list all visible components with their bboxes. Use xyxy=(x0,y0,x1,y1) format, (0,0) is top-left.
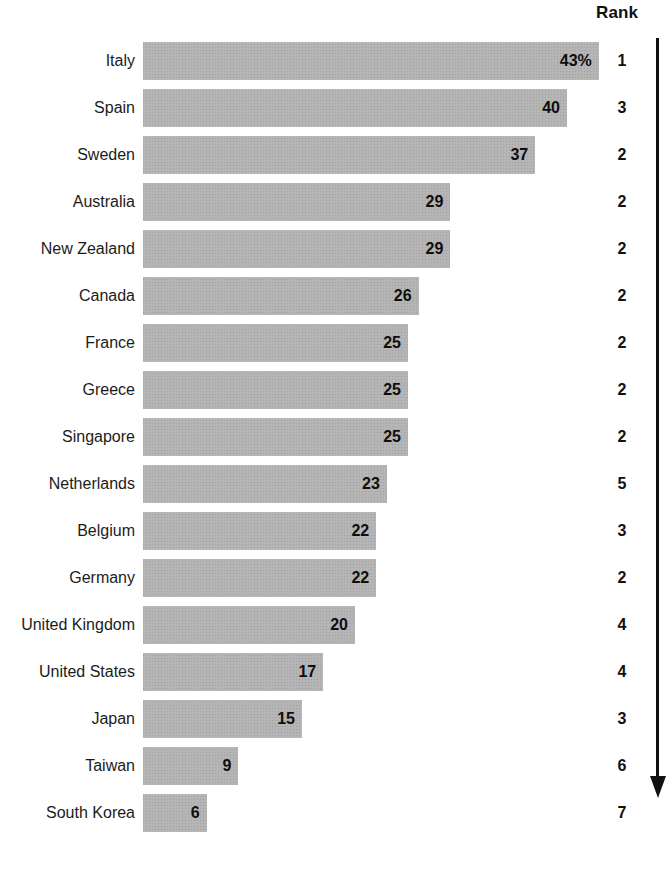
country-label: Germany xyxy=(0,559,135,597)
arrow-shaft-icon xyxy=(656,38,659,780)
bar-value-label: 29 xyxy=(426,230,444,268)
table-row: Taiwan96 xyxy=(0,747,672,785)
country-label: Spain xyxy=(0,89,135,127)
table-row: Australia292 xyxy=(0,183,672,221)
country-label: Netherlands xyxy=(0,465,135,503)
country-label: Canada xyxy=(0,277,135,315)
bar-value-label: 40 xyxy=(542,89,560,127)
value-bar: 37 xyxy=(143,136,535,174)
bar-value-label: 25 xyxy=(383,371,401,409)
rank-value: 3 xyxy=(608,700,636,738)
rank-column-header: Rank xyxy=(596,3,656,23)
table-row: United Kingdom204 xyxy=(0,606,672,644)
bar-value-label: 22 xyxy=(351,512,369,550)
country-label: South Korea xyxy=(0,794,135,832)
country-label: New Zealand xyxy=(0,230,135,268)
rank-value: 3 xyxy=(608,89,636,127)
rank-value: 2 xyxy=(608,230,636,268)
rank-value: 2 xyxy=(608,277,636,315)
value-bar: 22 xyxy=(143,559,376,597)
table-row: France252 xyxy=(0,324,672,362)
bar-value-label: 37 xyxy=(510,136,528,174)
rank-value: 4 xyxy=(608,606,636,644)
rank-value: 2 xyxy=(608,136,636,174)
rank-value: 6 xyxy=(608,747,636,785)
value-bar: 22 xyxy=(143,512,376,550)
country-label: Italy xyxy=(0,42,135,80)
bar-value-label: 23 xyxy=(362,465,380,503)
country-label: Australia xyxy=(0,183,135,221)
rank-value: 2 xyxy=(608,418,636,456)
value-bar: 23 xyxy=(143,465,387,503)
value-bar: 29 xyxy=(143,230,450,268)
table-row: South Korea67 xyxy=(0,794,672,832)
table-row: Netherlands235 xyxy=(0,465,672,503)
rank-value: 2 xyxy=(608,324,636,362)
bar-value-label: 20 xyxy=(330,606,348,644)
table-row: Germany222 xyxy=(0,559,672,597)
value-bar: 40 xyxy=(143,89,567,127)
table-row: United States174 xyxy=(0,653,672,691)
value-bar: 26 xyxy=(143,277,419,315)
rank-value: 5 xyxy=(608,465,636,503)
bar-value-label: 15 xyxy=(277,700,295,738)
country-label: Taiwan xyxy=(0,747,135,785)
value-bar: 25 xyxy=(143,418,408,456)
value-bar: 25 xyxy=(143,324,408,362)
country-label: Japan xyxy=(0,700,135,738)
value-bar: 15 xyxy=(143,700,302,738)
horizontal-bar-chart: Rank Italy43%1Spain403Sweden372Australia… xyxy=(0,0,672,889)
value-bar: 9 xyxy=(143,747,238,785)
table-row: Belgium223 xyxy=(0,512,672,550)
bar-value-label: 9 xyxy=(222,747,231,785)
bar-value-label: 17 xyxy=(298,653,316,691)
rank-value: 3 xyxy=(608,512,636,550)
rank-value: 1 xyxy=(608,42,636,80)
value-bar: 17 xyxy=(143,653,323,691)
table-row: Greece252 xyxy=(0,371,672,409)
table-row: Japan153 xyxy=(0,700,672,738)
rank-value: 2 xyxy=(608,559,636,597)
value-bar: 29 xyxy=(143,183,450,221)
table-row: Sweden372 xyxy=(0,136,672,174)
table-row: Spain403 xyxy=(0,89,672,127)
table-row: Italy43%1 xyxy=(0,42,672,80)
country-label: France xyxy=(0,324,135,362)
bar-value-label: 22 xyxy=(351,559,369,597)
value-bar: 6 xyxy=(143,794,207,832)
bar-value-label: 26 xyxy=(394,277,412,315)
rank-value: 2 xyxy=(608,183,636,221)
bar-value-label: 29 xyxy=(426,183,444,221)
country-label: Sweden xyxy=(0,136,135,174)
country-label: Greece xyxy=(0,371,135,409)
value-bar: 43% xyxy=(143,42,599,80)
bar-value-label: 6 xyxy=(191,794,200,832)
rank-value: 4 xyxy=(608,653,636,691)
bar-value-label: 25 xyxy=(383,324,401,362)
arrow-head-icon xyxy=(650,776,666,798)
table-row: Canada262 xyxy=(0,277,672,315)
bar-value-label: 25 xyxy=(383,418,401,456)
country-label: Singapore xyxy=(0,418,135,456)
country-label: Belgium xyxy=(0,512,135,550)
table-row: Singapore252 xyxy=(0,418,672,456)
rank-value: 2 xyxy=(608,371,636,409)
rank-value: 7 xyxy=(608,794,636,832)
table-row: New Zealand292 xyxy=(0,230,672,268)
country-label: United Kingdom xyxy=(0,606,135,644)
value-bar: 20 xyxy=(143,606,355,644)
country-label: United States xyxy=(0,653,135,691)
bar-value-label: 43% xyxy=(560,42,592,80)
rank-direction-arrow xyxy=(650,38,666,808)
value-bar: 25 xyxy=(143,371,408,409)
